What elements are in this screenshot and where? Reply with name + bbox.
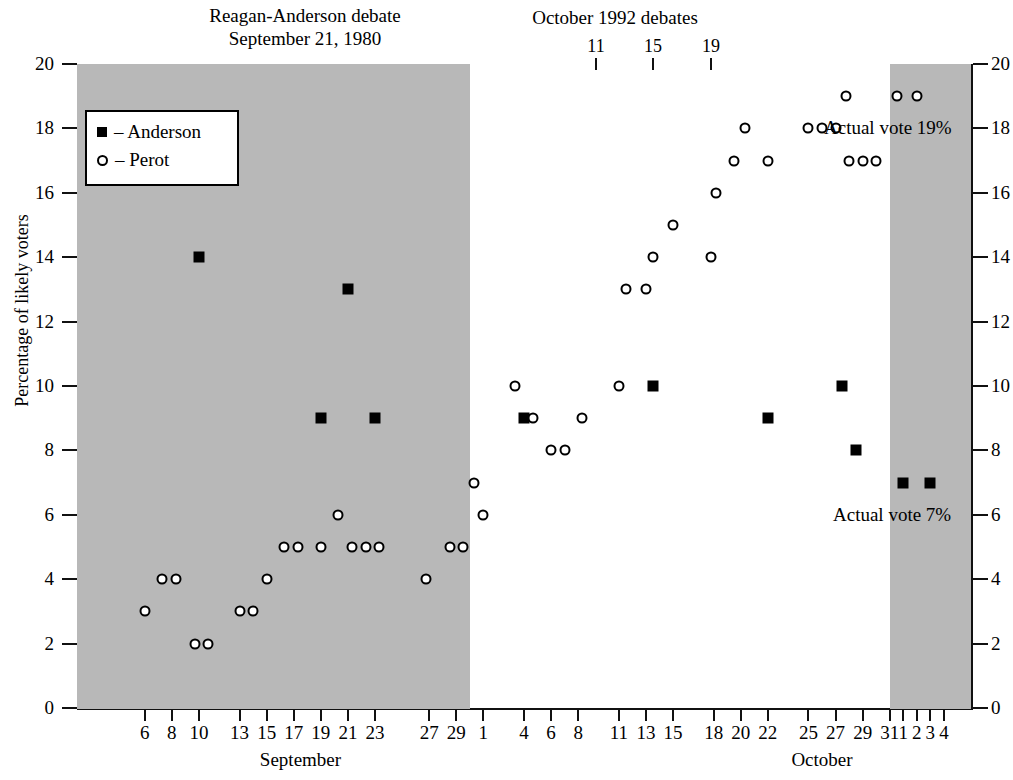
x-tick-label: 3 (926, 723, 936, 743)
data-point-perot (728, 155, 739, 166)
debate-date-label-15: 15 (644, 37, 662, 56)
x-tick-label: 22 (758, 723, 777, 743)
data-point-perot (841, 91, 852, 102)
x-tick-label: 15 (664, 723, 683, 743)
x-tick-label: 1 (479, 723, 489, 743)
x-tick (455, 710, 457, 721)
data-point-perot (203, 638, 214, 649)
x-tick-label: 27 (420, 723, 439, 743)
data-point-perot (668, 220, 679, 231)
x-tick-label: 15 (257, 723, 276, 743)
x-tick-label: 2 (912, 723, 922, 743)
x-tick (807, 710, 809, 721)
data-point-anderson (762, 413, 773, 424)
y-tick-label-right: 16 (991, 183, 1013, 202)
y-tick-label-right: 18 (991, 118, 1013, 137)
legend-item-anderson: – Anderson (97, 122, 201, 142)
y-tick-label-left: 4 (10, 569, 54, 588)
data-point-perot (739, 123, 750, 134)
data-point-perot (705, 252, 716, 263)
x-tick-label: 29 (447, 723, 466, 743)
x-tick-label: 17 (284, 723, 303, 743)
y-tick-left (62, 63, 77, 65)
x-tick (320, 710, 322, 721)
data-point-perot (911, 91, 922, 102)
x-tick (835, 710, 837, 721)
y-tick-label-right: 0 (991, 698, 1013, 717)
x-tick-label: 18 (704, 723, 723, 743)
y-tick-left (62, 449, 77, 451)
y-tick-left (62, 256, 77, 258)
data-point-perot (139, 606, 150, 617)
y-tick-left (62, 514, 77, 516)
data-point-perot (261, 574, 272, 585)
data-point-perot (374, 542, 385, 553)
y-tick-label-right: 14 (991, 247, 1013, 266)
legend-anderson-label: – Anderson (114, 122, 201, 142)
data-point-perot (577, 413, 588, 424)
y-tick-right (973, 256, 988, 258)
x-tick-label: 11 (610, 723, 628, 743)
data-point-perot (871, 155, 882, 166)
chart-title-left-line1: Reagan-Anderson debate (125, 4, 485, 27)
x-tick (929, 710, 931, 721)
x-tick (645, 710, 647, 721)
x-tick (767, 710, 769, 721)
y-tick-label-left: 0 (10, 698, 54, 717)
y-tick-label-left: 6 (10, 505, 54, 524)
data-point-perot (478, 509, 489, 520)
y-tick-right (973, 514, 988, 516)
filled-square-icon (97, 127, 107, 137)
y-tick-right (973, 643, 988, 645)
x-tick-label: 1 (899, 723, 909, 743)
x-tick (889, 710, 891, 721)
x-tick-label: 25 (799, 723, 818, 743)
x-tick (550, 710, 552, 721)
x-tick (577, 710, 579, 721)
y-tick-label-right: 10 (991, 376, 1013, 395)
data-point-perot (647, 252, 658, 263)
chart-title-left-line2: September 21, 1980 (125, 27, 485, 50)
data-point-perot (279, 542, 290, 553)
x-tick-label: 6 (546, 723, 556, 743)
y-tick-left (62, 707, 77, 709)
y-tick-label-left: 20 (10, 54, 54, 73)
x-tick-label: 23 (366, 723, 385, 743)
data-point-perot (444, 542, 455, 553)
x-axis-month-label-october: October (791, 750, 852, 770)
data-point-perot (528, 413, 539, 424)
y-tick-label-left: 18 (10, 118, 54, 137)
data-point-perot (248, 606, 259, 617)
data-point-perot (292, 542, 303, 553)
y-tick-left (62, 643, 77, 645)
x-tick-label: 13 (636, 723, 655, 743)
y-tick-label-right: 20 (991, 54, 1013, 73)
x-tick (902, 710, 904, 721)
x-tick-label: 8 (573, 723, 583, 743)
data-point-perot (891, 91, 902, 102)
x-tick (618, 710, 620, 721)
x-tick-label: 8 (167, 723, 177, 743)
x-tick (482, 710, 484, 721)
y-tick-right (973, 707, 988, 709)
debate-date-label-19: 19 (702, 37, 720, 56)
x-tick (347, 710, 349, 721)
x-tick (713, 710, 715, 721)
chart-title-right: October 1992 debates (470, 6, 760, 29)
x-tick (862, 710, 864, 721)
open-circle-icon (97, 155, 108, 166)
data-point-perot (157, 574, 168, 585)
x-tick (293, 710, 295, 721)
y-tick-label-right: 2 (991, 634, 1013, 653)
y-tick-label-left: 8 (10, 440, 54, 459)
data-point-perot (857, 155, 868, 166)
data-point-perot (762, 155, 773, 166)
y-tick-right (973, 385, 988, 387)
data-point-anderson (370, 413, 381, 424)
annotation-actual-vote-perot: Actual vote 19% (824, 118, 952, 138)
chart-legend: – Anderson – Perot (85, 110, 239, 186)
y-tick-right (973, 127, 988, 129)
x-tick-label: 4 (939, 723, 949, 743)
data-point-anderson (193, 252, 204, 263)
y-axis-title: Percentage of likely voters (12, 191, 33, 431)
